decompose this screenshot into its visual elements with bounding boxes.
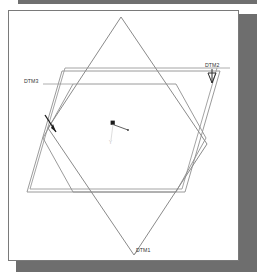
dtm1-outline[interactable] [48, 17, 207, 255]
dtm2-label[interactable]: DTM2 [205, 62, 220, 68]
dtm3-outline[interactable] [43, 84, 206, 192]
csys-x-axis-tip [127, 129, 129, 131]
screenshot-root: DTM2 DTM3 DTM1 [0, 0, 257, 272]
wireframe-canvas[interactable]: DTM2 DTM3 DTM1 [9, 11, 238, 260]
window-title-strip [18, 0, 257, 4]
csys-origin-square [111, 121, 115, 125]
csys-y-axis [111, 125, 113, 141]
csys-marker[interactable]: Y [109, 121, 129, 145]
dtm3-label[interactable]: DTM3 [24, 78, 39, 84]
csys-x-axis [113, 125, 128, 131]
datum-plane-dtm1[interactable]: DTM1 [48, 17, 207, 255]
csys-y-axis-label: Y [109, 140, 112, 145]
cad-graphics-window[interactable]: DTM2 DTM3 DTM1 [8, 10, 239, 261]
dtm1-label[interactable]: DTM1 [136, 247, 151, 253]
datum-plane-dtm3[interactable]: DTM3 [24, 78, 206, 192]
graphics-area[interactable]: DTM2 DTM3 DTM1 [9, 11, 238, 260]
